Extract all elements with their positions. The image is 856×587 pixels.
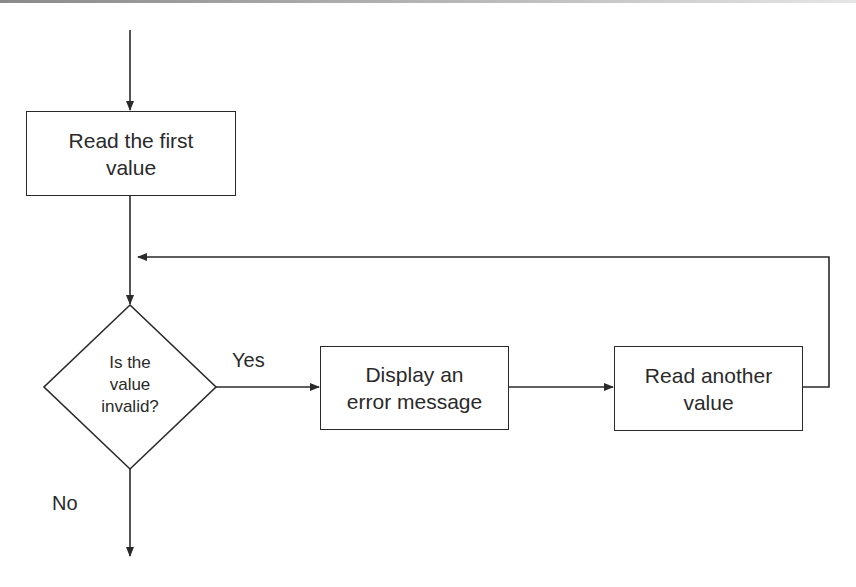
yes-label: Yes [232,349,265,372]
display-error-line1: Display an [347,361,482,388]
read-another-line1: Read another [645,362,772,389]
read-another-value-box: Read another value [614,346,803,431]
read-first-line1: Read the first [69,127,194,154]
decision-line2: value [70,374,190,396]
display-error-line2: error message [347,388,482,415]
read-first-value-box: Read the first value [26,111,236,196]
decision-text: Is the value invalid? [70,352,190,418]
read-first-line2: value [69,154,194,181]
display-error-box: Display an error message [320,346,509,430]
decision-line1: Is the [70,352,190,374]
read-another-line2: value [645,389,772,416]
flowchart-connectors [0,0,856,587]
no-label: No [52,492,78,515]
decision-line3: invalid? [70,396,190,418]
